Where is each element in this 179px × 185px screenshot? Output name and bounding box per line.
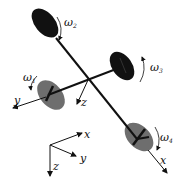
omega-4-label: ω4 [160, 131, 173, 144]
omega-1-label: ω1 [23, 71, 36, 84]
inertial-x-label: x [84, 128, 91, 141]
arm-1-3 [48, 66, 124, 95]
body-z-label: z [80, 96, 87, 109]
omega-3-label: ω3 [150, 61, 163, 74]
omega-2-label: ω2 [64, 16, 77, 29]
arm-2-4 [56, 38, 137, 139]
inertial-z-label: z [52, 160, 59, 173]
rotation-arrow-4 [155, 127, 159, 150]
body-x-label: x [160, 154, 167, 167]
inertial-y-label: y [79, 152, 87, 165]
quadrotor-diagram: ω2 ω3 ω1 ω4 y z x x y z [0, 0, 179, 185]
rotation-arrow-3 [140, 57, 144, 82]
body-y-label: y [13, 94, 21, 107]
rotor-1 [32, 75, 71, 115]
rotor-2 [26, 4, 63, 43]
